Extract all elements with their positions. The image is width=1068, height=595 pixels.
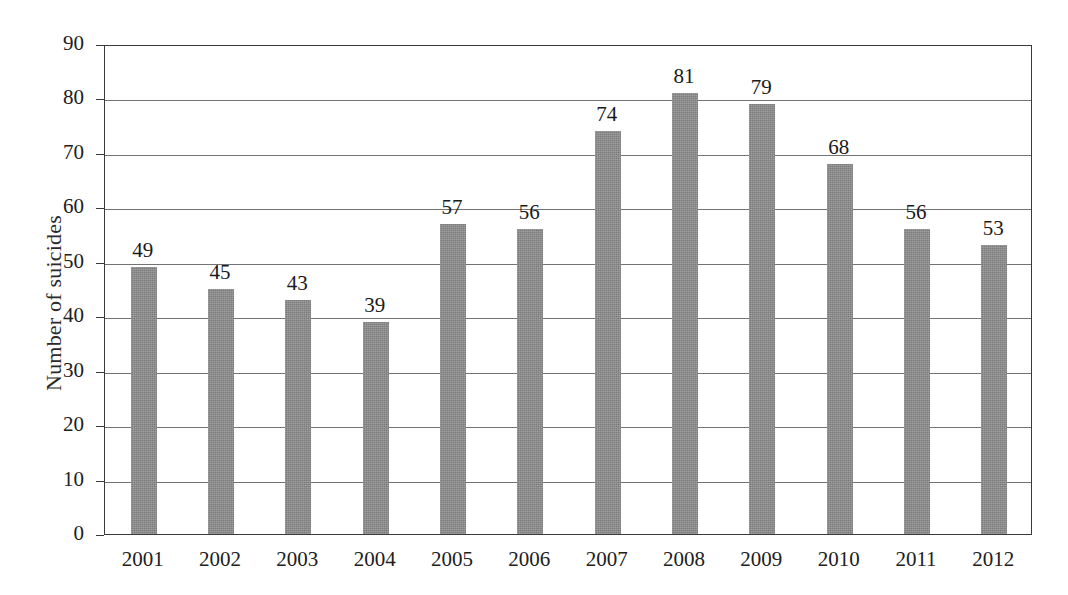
y-axis-tick-mark	[96, 372, 104, 373]
gridline	[105, 427, 1031, 428]
y-axis-tick-label: 80	[14, 85, 84, 110]
bar-value-label: 74	[567, 102, 647, 127]
bar-value-label: 53	[953, 216, 1033, 241]
bar	[208, 289, 234, 534]
bar	[749, 104, 775, 534]
y-axis-tick-label: 30	[14, 358, 84, 383]
y-axis-tick-label: 40	[14, 303, 84, 328]
gridline	[105, 373, 1031, 374]
y-axis-tick-mark	[96, 208, 104, 209]
y-axis-tick-mark	[96, 154, 104, 155]
bar	[595, 131, 621, 534]
y-axis-tick-mark	[96, 99, 104, 100]
y-axis-tick-mark	[96, 426, 104, 427]
bar	[827, 164, 853, 534]
bar	[131, 267, 157, 534]
y-axis-tick-label: 60	[14, 194, 84, 219]
bar-chart-figure: Number of suicides 0102030405060708090 4…	[0, 0, 1068, 595]
y-axis-tick-label: 0	[14, 521, 84, 546]
gridline	[105, 155, 1031, 156]
gridline	[105, 318, 1031, 319]
bar-value-label: 56	[489, 200, 569, 225]
bar-value-label: 49	[103, 238, 183, 263]
y-axis-tick-label: 70	[14, 140, 84, 165]
bar	[285, 300, 311, 534]
y-axis-tick-mark	[96, 45, 104, 46]
y-axis-tick-mark	[96, 317, 104, 318]
bar	[904, 229, 930, 534]
bar-value-label: 79	[721, 75, 801, 100]
bar	[440, 224, 466, 534]
bar	[517, 229, 543, 534]
y-axis-tick-mark	[96, 481, 104, 482]
bar	[672, 93, 698, 534]
bar	[981, 245, 1007, 534]
y-axis-tick-label: 50	[14, 249, 84, 274]
y-axis-tick-label: 90	[14, 31, 84, 56]
bar-value-label: 39	[335, 293, 415, 318]
y-axis-tick-label: 10	[14, 467, 84, 492]
bar-value-label: 56	[876, 200, 956, 225]
bar-value-label: 81	[644, 64, 724, 89]
bar-value-label: 45	[180, 260, 260, 285]
y-axis-tick-label: 20	[14, 412, 84, 437]
bar-value-label: 57	[412, 195, 492, 220]
x-axis-tick-label: 2012	[948, 547, 1038, 572]
bar	[363, 322, 389, 534]
y-axis-tick-mark	[96, 535, 104, 536]
bar-value-label: 43	[257, 271, 337, 296]
gridline	[105, 482, 1031, 483]
bar-value-label: 68	[799, 135, 879, 160]
